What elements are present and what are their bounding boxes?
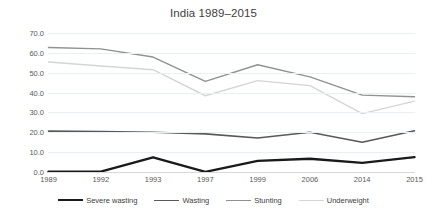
x-axis-tick-label: 1993 [145,175,162,184]
gridline [48,53,415,54]
legend-label: Stunting [254,196,282,205]
chart-title: India 1989–2015 [0,7,427,19]
series-line [49,157,415,172]
legend-label: Severe wasting [86,196,137,205]
gridline [48,132,415,133]
y-axis-tick-label: 50.0 [4,68,44,77]
plot-area [48,33,415,172]
y-axis-tick-label: 40.0 [4,88,44,97]
gridline [48,112,415,113]
y-axis-tick-label: 60.0 [4,48,44,57]
legend-line-icon [154,200,179,201]
x-axis-tick-label: 2015 [406,175,423,184]
legend-item[interactable]: Underweight [299,196,369,205]
x-axis-tick-label: 1997 [197,175,214,184]
y-axis-tick-label: 20.0 [4,128,44,137]
x-axis-tick-label: 2014 [354,175,371,184]
x-axis: 19891992199319971999200620142015 [48,175,415,188]
y-axis-tick-label: 10.0 [4,148,44,157]
legend-line-icon [58,199,83,201]
chart-legend: Severe wastingWastingStuntingUnderweight [0,192,427,208]
legend-item[interactable]: Stunting [226,196,282,205]
gridline [48,152,415,153]
x-axis-line [48,172,415,173]
legend-label: Underweight [327,196,369,205]
legend-line-icon [299,200,324,201]
y-axis-tick-label: 70.0 [4,29,44,38]
y-axis-tick-label: 30.0 [4,108,44,117]
chart-container: India 1989–2015 0.010.020.030.040.050.06… [0,0,427,214]
x-axis-tick-label: 1989 [40,175,57,184]
gridline [48,93,415,94]
y-axis-tick-label: 0.0 [4,168,44,177]
legend-item[interactable]: Wasting [154,196,209,205]
series-line [49,62,415,114]
y-axis: 0.010.020.030.040.050.060.070.0 [0,33,44,172]
gridline [48,33,415,34]
x-axis-tick-label: 2006 [302,175,319,184]
legend-item[interactable]: Severe wasting [58,196,137,205]
legend-line-icon [226,200,251,201]
x-axis-tick-label: 1992 [92,175,109,184]
legend-label: Wasting [182,196,209,205]
x-axis-tick-label: 1999 [249,175,266,184]
gridline [48,73,415,74]
